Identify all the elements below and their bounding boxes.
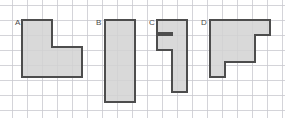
- shape-label-b: B: [96, 18, 101, 27]
- shape-b[interactable]: [105, 20, 135, 102]
- shape-outline-d[interactable]: [210, 20, 270, 77]
- shape-d[interactable]: [210, 20, 270, 77]
- shape-outline-c[interactable]: [157, 20, 187, 92]
- shape-c[interactable]: [157, 20, 187, 92]
- shape-label-a: A: [15, 18, 21, 27]
- shape-label-c: C: [149, 18, 155, 27]
- shapes-on-grid-svg: ABCD: [0, 0, 285, 118]
- shape-outline-a[interactable]: [22, 20, 82, 77]
- worksheet-figure: ABCD: [0, 0, 285, 118]
- shape-a[interactable]: [22, 20, 82, 77]
- shape-outline-b[interactable]: [105, 20, 135, 102]
- shape-label-d: D: [201, 18, 207, 27]
